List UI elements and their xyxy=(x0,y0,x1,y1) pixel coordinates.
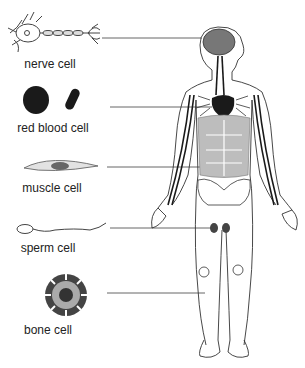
right-hand xyxy=(282,210,297,230)
testes xyxy=(210,223,230,233)
left-foot xyxy=(200,340,221,357)
bone-cell-icon xyxy=(45,274,87,316)
label-red-blood-cell: red blood cell xyxy=(17,121,88,135)
brain xyxy=(203,29,235,55)
heart xyxy=(212,95,235,118)
muscle-cell-icon xyxy=(24,160,98,170)
left-hand xyxy=(152,208,166,228)
right-foot xyxy=(228,340,249,357)
label-bone-cell: bone cell xyxy=(24,323,72,337)
sperm-cell-icon xyxy=(17,223,106,234)
pelvis xyxy=(198,179,251,205)
red-blood-cell-icon xyxy=(23,86,81,114)
cell-diagram: nerve cell red blood cell muscle cell sp… xyxy=(0,0,305,368)
label-nerve-cell: nerve cell xyxy=(24,57,75,71)
label-sperm-cell: sperm cell xyxy=(21,241,76,255)
label-muscle-cell: muscle cell xyxy=(22,181,81,195)
nerve-cell-icon xyxy=(8,12,100,52)
leader-lines xyxy=(102,38,214,293)
